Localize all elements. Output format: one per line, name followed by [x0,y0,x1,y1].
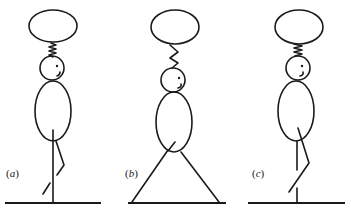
eye-c [301,65,303,67]
label-paren-close: ) [261,167,265,179]
hip-stroke-b [168,142,175,151]
head-c [286,56,310,80]
label-paren-close: ) [15,167,19,179]
head-a [40,56,64,80]
right-leg-b [181,152,219,202]
label-paren-close: ) [134,167,138,179]
panel-label-c: (c) [252,168,264,179]
foot-a [43,183,50,194]
mouth-c [300,72,303,76]
bent-leg-a [56,141,64,175]
head-b [161,68,185,92]
body-c [278,81,314,141]
spring-c [294,44,302,56]
figure-b [128,10,226,203]
thought-bubble-a [29,10,77,42]
panel-label-a: (a) [6,168,19,179]
mouth-b [178,84,181,88]
eye-b [178,77,180,79]
mouth-a [57,72,60,76]
thought-bubble-c [275,10,323,44]
eye-a [56,65,58,67]
thought-bubble-b [151,10,199,44]
spring-b [170,45,178,68]
figure-a [5,10,101,203]
panel-label-b: (b) [125,168,138,179]
diagram-canvas [0,0,351,211]
spring-a [49,43,56,57]
crossed-leg-c [289,128,309,192]
